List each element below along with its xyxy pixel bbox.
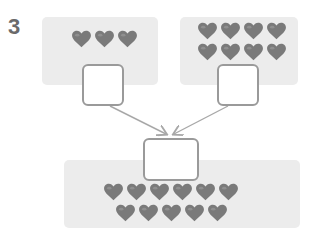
heart-icon — [103, 183, 124, 201]
total-hearts — [101, 183, 241, 225]
heart-icon — [115, 204, 136, 222]
left-hearts — [68, 30, 140, 51]
heart-icon — [218, 183, 239, 201]
right-answer-box[interactable] — [217, 64, 259, 106]
total-answer-box[interactable] — [143, 138, 199, 181]
heart-icon — [71, 30, 92, 48]
heart-icon — [94, 30, 115, 48]
heart-icon — [184, 204, 205, 222]
arrow-left — [110, 106, 166, 134]
heart-icon — [220, 43, 241, 61]
heart-icon — [172, 183, 193, 201]
heart-icon — [149, 183, 170, 201]
heart-icon — [126, 183, 147, 201]
left-answer-box[interactable] — [82, 64, 124, 106]
heart-icon — [138, 204, 159, 222]
heart-icon — [266, 43, 287, 61]
arrow-right — [174, 106, 228, 134]
heart-icon — [243, 43, 264, 61]
heart-icon — [117, 30, 138, 48]
heart-icon — [195, 183, 216, 201]
heart-icon — [266, 22, 287, 40]
heart-icon — [207, 204, 228, 222]
right-hearts — [195, 22, 289, 64]
heart-icon — [161, 204, 182, 222]
heart-icon — [243, 22, 264, 40]
heart-icon — [197, 22, 218, 40]
heart-icon — [220, 22, 241, 40]
heart-icon — [197, 43, 218, 61]
